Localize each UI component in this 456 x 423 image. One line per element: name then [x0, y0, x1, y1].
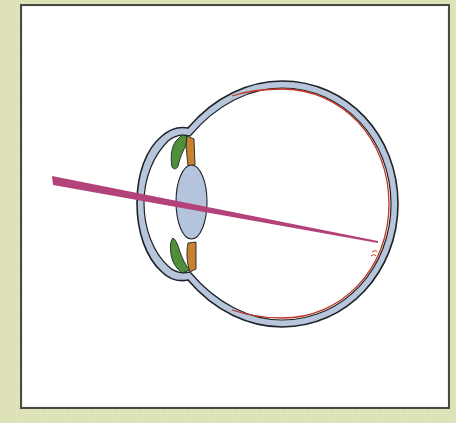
iris-top — [186, 136, 195, 166]
eye-diagram — [0, 0, 456, 423]
iris-bottom — [187, 242, 196, 272]
